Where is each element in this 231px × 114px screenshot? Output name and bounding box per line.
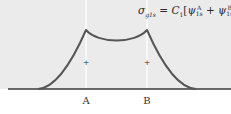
sigma-subscript: g1s xyxy=(145,11,156,18)
orbital-formula: σg1s = C1[ψA1s + ψB1s] xyxy=(138,4,231,18)
nucleus-a-label: A xyxy=(81,95,90,106)
nucleus-a-marker: + xyxy=(83,58,90,67)
orbital-diagram: + + A B σg1s = C1[ψA1s + ψB1s] xyxy=(0,0,231,114)
plus-sign: + xyxy=(206,4,215,16)
psi-a-scripts: A1s xyxy=(196,5,203,17)
psi-b-symbol: ψ xyxy=(218,4,226,16)
psi-b-scripts: B1s xyxy=(226,5,231,17)
nucleus-b-marker: + xyxy=(144,58,151,67)
nucleus-b-label: B xyxy=(143,95,150,106)
psi-a-symbol: ψ xyxy=(187,4,195,16)
equals-sign: = xyxy=(159,4,168,16)
